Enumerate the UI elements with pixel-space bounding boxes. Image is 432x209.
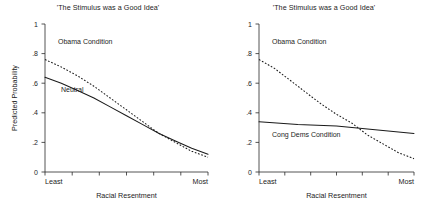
x-axis-end-label: Most <box>192 177 208 186</box>
figure-container: 'The Stimulus was a Good Idea' 1 .8 .6 .… <box>0 0 432 209</box>
panel-right: 'The Stimulus was a Good Idea' 1 .8 .6 .… <box>216 0 432 209</box>
panel-left: 'The Stimulus was a Good Idea' 1 .8 .6 .… <box>0 0 216 209</box>
series-label-obama-condition: Obama Condition <box>58 38 113 45</box>
x-axis-title: Racial Resentment <box>306 191 367 200</box>
series-label-neutral: Neutral <box>61 86 84 93</box>
x-axis-end-label: Most <box>398 177 414 186</box>
y-tick-label: .2 <box>32 139 38 146</box>
series-label-cong-dems-condition: Cong Dems Condition <box>272 131 341 139</box>
y-tick-label: .4 <box>246 109 252 116</box>
panel-right-plot: 1 .8 .6 .4 .2 0 Least Most Racial Resent… <box>216 0 432 209</box>
x-axis-start-label: Least <box>45 177 63 186</box>
y-tick-label: .2 <box>246 139 252 146</box>
x-tick-marks <box>259 172 414 176</box>
y-tick-label: 1 <box>248 21 252 28</box>
y-tick-label: .6 <box>32 80 38 87</box>
y-tick-label: .4 <box>32 109 38 116</box>
y-tick-label: 0 <box>34 169 38 176</box>
y-tick-label: .8 <box>32 50 38 57</box>
x-tick-marks <box>45 172 208 176</box>
y-tick-label: 0 <box>248 169 252 176</box>
y-axis-title: Predicted Probability <box>10 65 19 131</box>
series-obama-condition-line <box>45 60 208 158</box>
y-tick-label: .6 <box>246 80 252 87</box>
panel-left-plot: 1 .8 .6 .4 .2 0 Least Most Racial Resent… <box>0 0 216 209</box>
series-obama-condition-line <box>259 60 414 159</box>
x-axis-title: Racial Resentment <box>96 191 157 200</box>
y-tick-label: .8 <box>246 50 252 57</box>
y-tick-marks <box>42 24 46 172</box>
y-tick-marks <box>256 24 260 172</box>
y-tick-label: 1 <box>34 21 38 28</box>
series-label-obama-condition: Obama Condition <box>272 38 327 45</box>
x-axis-start-label: Least <box>259 177 277 186</box>
